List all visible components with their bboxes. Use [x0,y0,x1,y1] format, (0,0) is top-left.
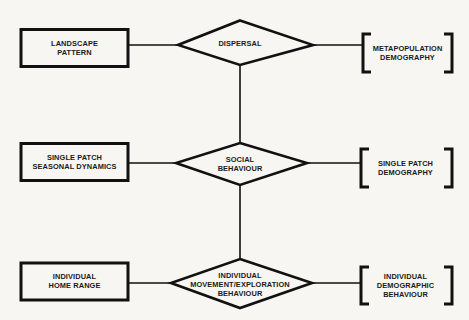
diamond-label-social-behaviour: SOCIAL BEHAVIOUR [195,153,285,175]
diamond-label-dispersal: DISPERSAL [190,32,290,54]
diamond-label-individual-movement-exploration: INDIVIDUAL MOVEMENT/EXPLORATION BEHAVIOU… [180,269,300,299]
diagram-canvas: LANDSCAPE PATTERN DISPERSAL METAPOPULATI… [0,0,469,320]
box-label-landscape-pattern: LANDSCAPE PATTERN [21,29,128,66]
bracket-label-individual-demographic-behaviour: INDIVIDUAL DEMOGRAPHIC BEHAVIOUR [363,267,448,304]
box-label-individual-home-range: INDIVIDUAL HOME RANGE [21,262,128,299]
bracket-label-single-patch-demography: SINGLE PATCH DEMOGRAPHY [363,149,448,187]
bracket-label-metapopulation-demography: METAPOPULATION DEMOGRAPHY [365,34,450,72]
box-label-single-patch-seasonal-dynamics: SINGLE PATCH SEASONAL DYNAMICS [21,143,128,180]
